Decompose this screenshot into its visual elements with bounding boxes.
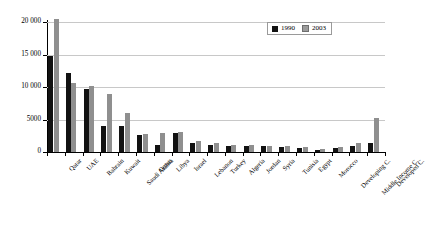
bar-group — [260, 22, 278, 152]
bar-group — [296, 22, 314, 152]
y-tick-mark — [43, 120, 47, 121]
bar-1990 — [101, 126, 106, 152]
bar-2003 — [125, 113, 130, 152]
bar-group — [118, 22, 136, 152]
bar-group — [332, 22, 350, 152]
bar-2003 — [107, 94, 112, 152]
bar-2003 — [54, 19, 59, 152]
bar-group — [225, 22, 243, 152]
bar-2003 — [160, 133, 165, 152]
x-axis-label: Kuwait — [122, 157, 141, 176]
x-axis-label: Morocco — [337, 157, 359, 179]
bar-group — [172, 22, 190, 152]
x-tick-mark — [47, 152, 48, 156]
bar-2003 — [143, 134, 148, 152]
bar-group — [314, 22, 332, 152]
bar-1990 — [119, 126, 124, 152]
x-tick-mark — [83, 152, 84, 156]
bar-group — [65, 22, 83, 152]
bar-1990 — [208, 145, 213, 152]
bar-2003 — [374, 118, 379, 152]
legend-label-2003: 2003 — [312, 25, 326, 32]
x-axis-label: UAE — [85, 157, 100, 172]
bar-group — [100, 22, 118, 152]
bar-2003 — [214, 143, 219, 152]
y-tick-mark — [43, 22, 47, 23]
x-tick-mark — [349, 152, 350, 156]
bar-1990 — [226, 146, 231, 152]
plot-area — [47, 22, 385, 152]
x-axis-label: Jordan — [264, 157, 281, 174]
legend-item-1990: 1990 — [272, 25, 295, 32]
bar-group — [154, 22, 172, 152]
bar-group — [278, 22, 296, 152]
bar-group — [136, 22, 154, 152]
legend-swatch-2003 — [302, 25, 309, 32]
x-tick-mark — [100, 152, 101, 156]
bar-1990 — [368, 143, 373, 152]
x-tick-mark — [260, 152, 261, 156]
x-axis-line — [47, 152, 386, 153]
x-tick-mark — [154, 152, 155, 156]
x-axis-label: Algeria — [247, 157, 266, 176]
x-tick-mark — [278, 152, 279, 156]
bar-1990 — [261, 146, 266, 152]
legend-item-2003: 2003 — [302, 25, 326, 32]
bar-group — [47, 22, 65, 152]
x-tick-mark — [189, 152, 190, 156]
x-axis-label: Tunisia — [300, 157, 319, 176]
y-tick-label: 15 000 — [21, 51, 41, 58]
bar-1990 — [279, 147, 284, 152]
x-tick-mark — [136, 152, 137, 156]
x-tick-mark — [296, 152, 297, 156]
y-tick-label: 0 — [37, 148, 41, 155]
x-tick-mark — [243, 152, 244, 156]
bar-2003 — [231, 145, 236, 152]
bar-1990 — [48, 56, 53, 152]
x-axis-label: Israel — [192, 157, 207, 172]
bar-2003 — [320, 149, 325, 152]
bar-1990 — [155, 145, 160, 152]
x-axis-label: Bahrain — [105, 157, 125, 177]
x-tick-mark — [65, 152, 66, 156]
bar-2003 — [356, 143, 361, 152]
y-tick-label: 5000 — [27, 116, 41, 123]
chart-legend: 1990 2003 — [267, 22, 332, 35]
bar-1990 — [333, 148, 338, 152]
legend-swatch-1990 — [272, 26, 278, 32]
bar-group — [367, 22, 385, 152]
bar-groups — [47, 22, 385, 152]
bar-1990 — [350, 146, 355, 153]
x-axis-label: Syria — [281, 157, 296, 172]
y-tick-mark — [43, 55, 47, 56]
bar-2003 — [303, 147, 308, 152]
x-tick-mark — [207, 152, 208, 156]
bar-1990 — [297, 148, 302, 152]
x-axis-label: Egypt — [317, 157, 333, 173]
bar-group — [349, 22, 367, 152]
bar-group — [207, 22, 225, 152]
y-tick-mark — [43, 87, 47, 88]
bar-2003 — [249, 145, 254, 152]
bar-1990 — [173, 133, 178, 152]
x-tick-mark — [172, 152, 173, 156]
bar-1990 — [84, 89, 89, 152]
bar-1990 — [137, 135, 142, 152]
legend-label-1990: 1990 — [281, 25, 295, 32]
bar-2003 — [71, 83, 76, 152]
bar-1990 — [66, 73, 71, 152]
bar-2003 — [267, 146, 272, 153]
bar-1990 — [315, 150, 320, 152]
bar-group — [189, 22, 207, 152]
x-axis-label: Qatar — [68, 157, 83, 172]
bar-2003 — [89, 86, 94, 152]
bar-2003 — [285, 146, 290, 152]
x-tick-mark — [118, 152, 119, 156]
x-axis-labels: QatarUAEBahrainKuwaitSaudi ArabiaOmanLib… — [47, 157, 385, 227]
bar-group — [243, 22, 261, 152]
bar-1990 — [244, 146, 249, 152]
bar-2003 — [178, 132, 183, 152]
x-tick-mark — [367, 152, 368, 156]
bar-1990 — [190, 143, 195, 152]
